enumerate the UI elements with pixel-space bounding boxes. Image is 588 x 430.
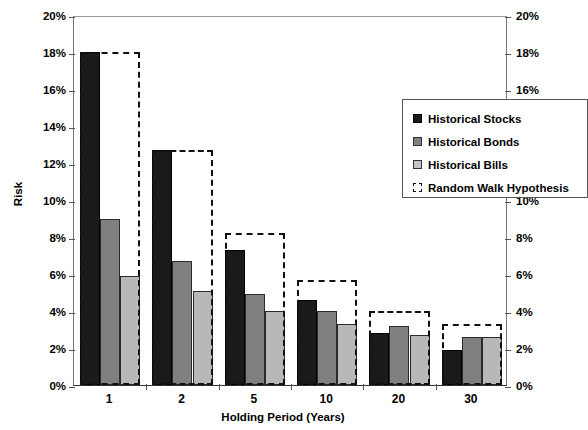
x-tick-label-10: 10: [291, 392, 361, 406]
x-tick-label-1: 1: [74, 392, 144, 406]
y-tick-right: [505, 387, 511, 388]
y-tick-label-left: 12%: [26, 158, 66, 170]
y-tick-label-left: 6%: [26, 269, 66, 281]
legend-item-random-walk-hypothesis: Random Walk Hypothesis: [413, 176, 587, 199]
bar-random-walk-10: [297, 280, 357, 385]
bar-group-10: [291, 17, 363, 385]
bar-group-30: [436, 17, 508, 385]
y-tick-label-right: 8%: [516, 232, 556, 244]
y-tick-label-right: 18%: [516, 47, 556, 59]
bar-group-2: [146, 17, 218, 385]
legend-label-historical-bonds: Historical Bonds: [428, 136, 519, 148]
y-tick-label-right: 4%: [516, 306, 556, 318]
y-tick-label-left: 10%: [26, 195, 66, 207]
legend-swatch-bills-icon: [413, 160, 422, 169]
chart-legend: Historical Stocks Historical Bonds Histo…: [402, 99, 588, 198]
y-tick-label-left: 2%: [26, 343, 66, 355]
legend-label-historical-bills: Historical Bills: [428, 159, 508, 171]
y-tick-label-left: 18%: [26, 47, 66, 59]
legend-label-random-walk-hypothesis: Random Walk Hypothesis: [428, 182, 569, 194]
y-tick-label-right: 16%: [516, 84, 556, 96]
x-tick-label-5: 5: [219, 392, 289, 406]
legend-item-historical-stocks: Historical Stocks: [413, 107, 587, 130]
y-tick-label-left: 0%: [26, 380, 66, 392]
y-tick-left: [69, 387, 75, 388]
y-tick-label-left: 16%: [26, 84, 66, 96]
bar-group-5: [219, 17, 291, 385]
y-tick-label-left: 4%: [26, 306, 66, 318]
legend-item-historical-bonds: Historical Bonds: [413, 130, 587, 153]
legend-item-historical-bills: Historical Bills: [413, 153, 587, 176]
y-tick-label-right: 6%: [516, 269, 556, 281]
y-tick-label-left: 14%: [26, 121, 66, 133]
y-tick-label-left: 8%: [26, 232, 66, 244]
bar-random-walk-5: [225, 233, 285, 385]
x-tick-label-20: 20: [364, 392, 434, 406]
legend-swatch-bonds-icon: [413, 137, 422, 146]
x-axis-title: Holding Period (Years): [0, 411, 566, 423]
bar-random-walk-2: [152, 150, 212, 385]
y-tick-label-left: 20%: [26, 10, 66, 22]
bar-group-1: [74, 17, 146, 385]
plot-area: Historical Stocks Historical Bonds Histo…: [73, 16, 507, 386]
legend-swatch-random-walk-icon: [413, 183, 422, 192]
legend-label-historical-stocks: Historical Stocks: [428, 113, 521, 125]
y-tick-label-right: 20%: [516, 10, 556, 22]
x-tick-label-2: 2: [147, 392, 217, 406]
y-tick-label-right: 0%: [516, 380, 556, 392]
x-tick-label-30: 30: [436, 392, 506, 406]
legend-swatch-stocks-icon: [413, 114, 422, 123]
y-tick-label-right: 2%: [516, 343, 556, 355]
y-axis-title: Risk: [12, 154, 24, 234]
bar-random-walk-30: [442, 324, 502, 385]
bar-group-20: [363, 17, 435, 385]
bar-random-walk-1: [80, 52, 140, 385]
bar-random-walk-20: [369, 311, 429, 385]
